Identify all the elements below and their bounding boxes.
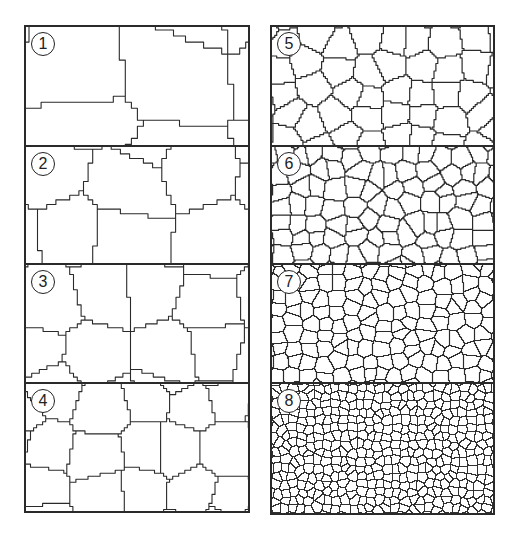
grain-panel-1: 1 — [26, 27, 248, 145]
grain-panel-7: 7 — [272, 263, 493, 382]
grain-boundaries — [272, 27, 493, 145]
panel-label-1: 1 — [31, 32, 55, 56]
grain-boundaries — [26, 27, 248, 145]
grain-panel-6: 6 — [272, 145, 493, 263]
panel-label-3: 3 — [31, 270, 55, 294]
grain-structure-1 — [26, 27, 248, 145]
grain-structure-6 — [272, 147, 493, 263]
panel-label-2: 2 — [31, 152, 55, 176]
grain-boundaries — [26, 265, 248, 382]
grain-boundaries — [26, 384, 248, 511]
grain-panel-2: 2 — [26, 145, 248, 263]
grain-panel-8: 8 — [272, 382, 493, 513]
grain-boundaries — [272, 147, 493, 263]
grain-panel-4: 4 — [26, 382, 248, 511]
grain-structure-4 — [26, 384, 248, 511]
panel-label-7: 7 — [277, 270, 301, 294]
grain-boundaries — [272, 265, 493, 382]
panel-label-8: 8 — [277, 389, 301, 413]
grain-boundaries — [272, 384, 493, 513]
grain-structure-8 — [272, 384, 493, 513]
grain-boundaries — [26, 147, 248, 263]
panel-label-6: 6 — [277, 152, 301, 176]
grain-structure-2 — [26, 147, 248, 263]
grain-structure-3 — [26, 265, 248, 382]
panel-label-5: 5 — [277, 32, 301, 56]
figure-column-left: 1 2 3 4 — [24, 25, 250, 513]
grain-panel-5: 5 — [272, 27, 493, 145]
panel-label-4: 4 — [31, 389, 55, 413]
figure-column-right: 5 6 7 8 — [270, 25, 495, 515]
grain-panel-3: 3 — [26, 263, 248, 382]
grain-structure-5 — [272, 27, 493, 145]
grain-structure-7 — [272, 265, 493, 382]
